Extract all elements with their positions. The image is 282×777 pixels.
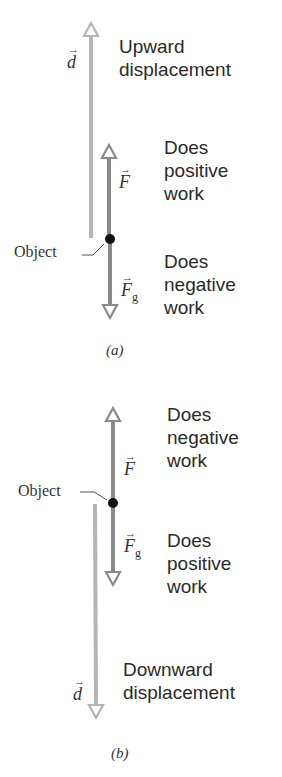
gravity-work-label-a: Does negative work [164, 250, 236, 319]
caption-a: (a) [106, 342, 124, 359]
force-work-label-a: Does positive work [164, 136, 228, 205]
displacement-symbol-a: →d [67, 52, 76, 73]
object-leader-line-b [80, 492, 107, 500]
force-symbol-b: →F [124, 459, 135, 480]
caption-b: (b) [111, 745, 129, 762]
displacement-arrow-shaft-b [95, 504, 96, 705]
panel-a-arrows [82, 23, 117, 318]
displacement-arrowhead-a [84, 23, 98, 36]
gravity-arrowhead-b [106, 572, 120, 585]
force-arrowhead-a [102, 145, 116, 158]
force-symbol-a: →F [119, 172, 130, 193]
gravity-symbol-b: →Fg [124, 536, 141, 561]
displacement-label-a: Upward displacement [119, 35, 231, 81]
object-dot-b [108, 498, 118, 508]
panel-b-arrows [80, 408, 120, 718]
force-work-label-b: Does negative work [167, 403, 239, 472]
object-leader-line-a [82, 244, 104, 255]
displacement-arrowhead-b [89, 705, 103, 718]
object-label-b: Object [18, 482, 61, 500]
force-arrowhead-b [106, 408, 120, 421]
gravity-work-label-b: Does positive work [167, 529, 231, 598]
gravity-arrowhead-a [103, 305, 117, 318]
displacement-symbol-b: →d [73, 684, 82, 705]
object-dot-a [105, 234, 115, 244]
displacement-label-b: Downward displacement [123, 658, 235, 704]
gravity-symbol-a: →Fg [121, 280, 138, 305]
object-label-a: Object [14, 243, 57, 261]
